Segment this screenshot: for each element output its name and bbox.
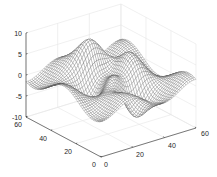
z-tick-label: 0: [18, 72, 22, 79]
x-tick-label: 0: [104, 161, 108, 168]
z-tick-label: -10: [12, 114, 22, 121]
x-axis-ticks: 0 20 40 60: [104, 130, 209, 168]
y-tick-label: 20: [64, 148, 72, 155]
z-tick-label: -5: [16, 93, 22, 100]
x-tick-label: 60: [201, 130, 209, 137]
y-tick-label: 60: [14, 121, 22, 128]
z-axis-ticks: 10 5 0 -5 -10: [12, 30, 22, 121]
x-tick-label: 40: [168, 142, 176, 149]
surface-mesh-chart: 10 5 0 -5 -10 60 40 20 0 0 20 40 60: [0, 0, 217, 177]
y-axis-ticks: 60 40 20 0: [14, 121, 96, 168]
y-tick-label: 0: [92, 161, 96, 168]
y-tick-label: 40: [39, 135, 47, 142]
x-tick-label: 20: [136, 151, 144, 158]
z-tick-label: 10: [14, 30, 22, 37]
z-tick-label: 5: [18, 51, 22, 58]
